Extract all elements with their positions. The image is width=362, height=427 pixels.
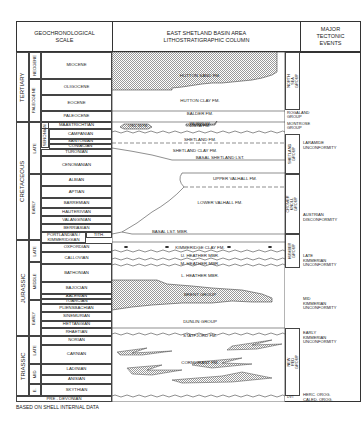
stage-cenomanian: CENOMANIAN bbox=[41, 156, 112, 174]
event-hercynian-caledonian: HERC. OROG. CALED. OROG. bbox=[303, 393, 333, 402]
stage-maastrichtian: MAASTRICHTIAN bbox=[41, 122, 112, 129]
stage-paleocene: PALEOCENE bbox=[41, 111, 112, 122]
stage-bathonian: BATHONIAN bbox=[41, 264, 112, 282]
stage-ladinian: LADINIAN bbox=[41, 364, 112, 375]
group-north-sea: NORTH SEA GROUP bbox=[285, 52, 300, 110]
era-tertiary: TERTIARY bbox=[16, 52, 29, 122]
stage-valanginian: VALANGINIAN bbox=[41, 216, 112, 224]
stage-callovian: CALLOVIAN bbox=[41, 252, 112, 264]
sub-late-jurassic: LATE bbox=[29, 240, 41, 262]
label-kimmeridge-clay: KIMMERIDGE CLAY FM. bbox=[175, 245, 224, 250]
label-lyell: LYELL SS FM. bbox=[128, 124, 148, 128]
sub-late-triassic: LATE bbox=[29, 336, 41, 364]
stage-hettangian: HETTANGIAN bbox=[41, 321, 112, 328]
group-dvt: DVT bbox=[287, 396, 294, 400]
label-hutton-clay: HUTTON CLAY FM. bbox=[180, 98, 219, 103]
label-upper-valhall: UPPER VALHALL FM. bbox=[213, 176, 257, 181]
label-statfjord: STATFJORD FM. bbox=[183, 333, 217, 338]
sub-early-cretaceous: EARLY bbox=[29, 174, 41, 240]
sub-middle-jurassic: MIDDLE bbox=[29, 262, 41, 300]
stage-aptian: APTIAN bbox=[41, 186, 112, 198]
label-u-heather: U. HEATHER MBR. bbox=[181, 253, 219, 258]
lithostratigraphic-column-chart bbox=[112, 52, 285, 402]
stage-pre-devonian: PRE - DEVONIAN bbox=[16, 396, 112, 402]
stage-bajocian: BAJOCIAN bbox=[41, 282, 112, 294]
sub-late-cretaceous: LATE bbox=[29, 122, 41, 174]
stage-norian: NORIAN bbox=[41, 336, 112, 345]
label-basal-lst: BASAL LST. MBR. bbox=[152, 229, 188, 234]
group-montrose: MONTROSE GROUP bbox=[287, 122, 310, 130]
header-lithostratigraphic-column: EAST SHETLAND BASIN AREA LITHOSTRATIGRAP… bbox=[112, 21, 301, 52]
header-tectonic-events: MAJOR TECTONIC EVENTS bbox=[300, 21, 361, 52]
stage-rhaetian: RHAETIAN bbox=[41, 328, 112, 336]
stage-campanian: CAMPANIAN bbox=[49, 129, 112, 139]
stage-turonian: TURONIAN bbox=[41, 149, 112, 156]
label-brent: BRENT GROUP bbox=[184, 292, 216, 297]
label-m-heather: M. HEATHER MBR. bbox=[181, 261, 220, 266]
group-rogaland: ROGALAND GROUP bbox=[287, 111, 309, 119]
sub-early-jurassic: EARLY bbox=[29, 300, 41, 336]
label-dunlin: DUNLIN GROUP bbox=[183, 319, 217, 324]
event-austrian: AUSTRIAN DISCONFORMITY bbox=[303, 213, 337, 222]
event-mid-kimmerian: MID KIMMERIAN UNCONFORMITY bbox=[303, 297, 336, 311]
stage-albian: ALBIAN bbox=[41, 174, 112, 186]
sub-mid-triassic: MID bbox=[29, 364, 41, 384]
sub-paleogene: PALEOGENE bbox=[29, 79, 41, 122]
group-new-red: NEW RED GROUP bbox=[285, 328, 300, 396]
stage-barremian: BARREMIAN bbox=[41, 198, 112, 208]
sub-neogene: NEOGENE bbox=[29, 52, 41, 79]
stage-oligocene: OLIGOCENE bbox=[41, 79, 112, 95]
label-shetland-clay: SHETLAND CLAY FM. bbox=[173, 148, 217, 153]
era-triassic: TRIASSIC bbox=[16, 336, 29, 396]
group-cromer-knoll: CROMER KNOLL GROUP bbox=[285, 174, 300, 234]
label-l-heather: L. HEATHER MBR. bbox=[181, 273, 219, 278]
label-basal-shetland: BASAL SHETLAND LST. bbox=[196, 155, 245, 160]
label-maureen: MAUREEN FM. bbox=[190, 122, 211, 126]
stage-anisian: ANISIAN bbox=[41, 375, 112, 384]
stage-portlandian-kimmeridgian: PORTLANDIAN / KIMMERIDGIAN bbox=[41, 232, 86, 243]
label-lower-valhall: LOWER VALHALL FM. bbox=[198, 200, 243, 205]
stage-miocene: MIOCENE bbox=[41, 52, 112, 79]
sub-early-triassic: E. bbox=[29, 384, 41, 396]
stage-sinemurian: SINEMURIAN bbox=[41, 312, 112, 321]
group-humber: HUMBER GROUP bbox=[285, 234, 300, 268]
label-cormorant: CORMORANT FM. bbox=[181, 360, 218, 365]
event-laramide: LARAMIDE UNCONFORMITY bbox=[303, 141, 336, 150]
event-late-kimmerian: LATE KIMMERIAN UNCONFORMITY bbox=[303, 254, 336, 268]
stage-hauterivian: HAUTERIVIAN bbox=[41, 208, 112, 216]
stage-skythian: SKYTHIAN bbox=[41, 384, 112, 396]
era-jurassic: JURASSIC bbox=[16, 240, 29, 336]
stage-carnian: CARNIAN bbox=[41, 345, 112, 364]
stage-eocene: EOCENE bbox=[41, 95, 112, 111]
label-balder: BALDER FM. bbox=[187, 111, 213, 116]
group-shetland: SHETLAND GROUP bbox=[285, 134, 300, 174]
header-geochronological-scale: GEOCHRONOLOGICAL SCALE bbox=[16, 21, 113, 52]
stage-oxfordian: OXFORDIAN bbox=[41, 243, 112, 252]
label-shetland: SHETLAND FM. bbox=[184, 137, 216, 142]
stage-pliensbachian: PLIENSBACHIAN bbox=[41, 304, 112, 312]
stage-berriasian: BERRIASIAN bbox=[41, 224, 112, 232]
stage-tithonian: TITH. bbox=[86, 232, 112, 238]
era-cretaceous: CRETACEOUS bbox=[16, 122, 29, 240]
event-early-kimmerian: EARLY KIMMERIAN UNCONFORMITY bbox=[303, 331, 336, 345]
footer-source-note: BASED ON SHELL INTERNAL DATA bbox=[16, 404, 99, 410]
label-hutton-sand: HUTTON SAND FM. bbox=[180, 73, 220, 78]
